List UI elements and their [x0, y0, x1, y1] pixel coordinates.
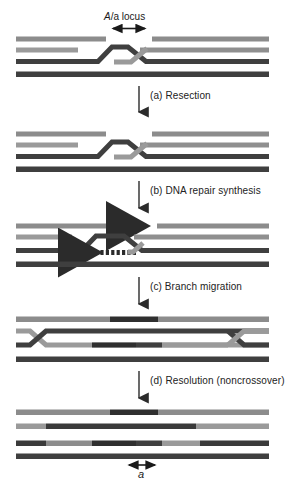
- diagram-canvas: [0, 0, 285, 484]
- step-label-a: (a) Resection: [150, 90, 211, 101]
- panel-resection: [16, 132, 269, 173]
- step-label-c: (c) Branch migration: [150, 281, 242, 292]
- step-label-d: (d) Resolution (noncrossover): [150, 375, 285, 386]
- step-label-b: (b) DNA repair synthesis: [150, 185, 261, 196]
- panel-initial-heteroduplex: [16, 37, 269, 78]
- dna-recombination-diagram: A/a locus (a) Resection (b) DNA repair s…: [0, 0, 285, 484]
- locus-label-rest: /a locus: [111, 11, 145, 22]
- panel-repair-synthesis: [16, 224, 269, 268]
- panel-branch-migration: [16, 317, 269, 363]
- panel-resolution: [16, 410, 269, 460]
- locus-label: A/a locus: [104, 11, 145, 22]
- allele-label: a: [138, 468, 144, 480]
- locus-label-italic: A: [104, 11, 111, 22]
